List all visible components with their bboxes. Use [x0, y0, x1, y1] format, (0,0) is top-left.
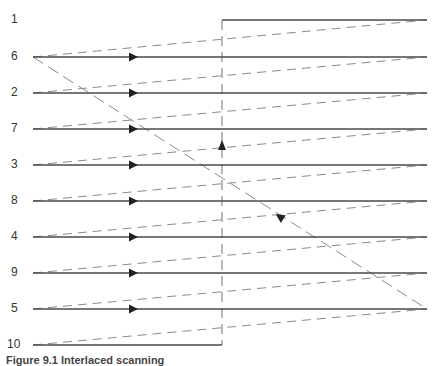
- arrow-right-icon: [129, 125, 138, 134]
- arrow-up-icon: [218, 140, 226, 150]
- line-retrace-dashed: [33, 237, 427, 273]
- line-retrace-dashed: [33, 201, 427, 237]
- arrow-right-icon: [129, 305, 138, 314]
- row-label-2: 2: [11, 86, 18, 98]
- line-retrace-dashed: [33, 20, 427, 57]
- arrow-right-icon: [129, 53, 138, 62]
- arrow-right-icon: [129, 161, 138, 170]
- line-retrace-dashed: [33, 273, 427, 309]
- arrow-up-left-icon: [276, 214, 286, 223]
- arrow-right-icon: [129, 197, 138, 206]
- arrow-right-icon: [129, 89, 138, 98]
- row-label-6: 6: [11, 50, 18, 62]
- figure-caption: Figure 9.1 Interlaced scanning: [6, 354, 164, 366]
- row-label-5: 5: [11, 302, 18, 314]
- row-label-3: 3: [11, 158, 18, 170]
- row-label-7: 7: [11, 122, 18, 134]
- line-retrace-dashed: [33, 165, 427, 201]
- line-retrace-dashed: [33, 309, 427, 345]
- row-label-8: 8: [11, 194, 18, 206]
- row-label-1: 1: [11, 13, 18, 25]
- row-label-9: 9: [11, 266, 18, 278]
- row-label-4: 4: [11, 230, 18, 242]
- line-retrace-dashed: [33, 129, 427, 165]
- arrow-right-icon: [129, 269, 138, 278]
- arrow-right-icon: [129, 233, 138, 242]
- direction-arrows: [129, 53, 286, 314]
- line-retrace-dashed: [33, 93, 427, 129]
- retrace-dashed-lines: [33, 20, 427, 345]
- row-label-10: 10: [7, 338, 20, 350]
- line-retrace-dashed: [33, 57, 427, 93]
